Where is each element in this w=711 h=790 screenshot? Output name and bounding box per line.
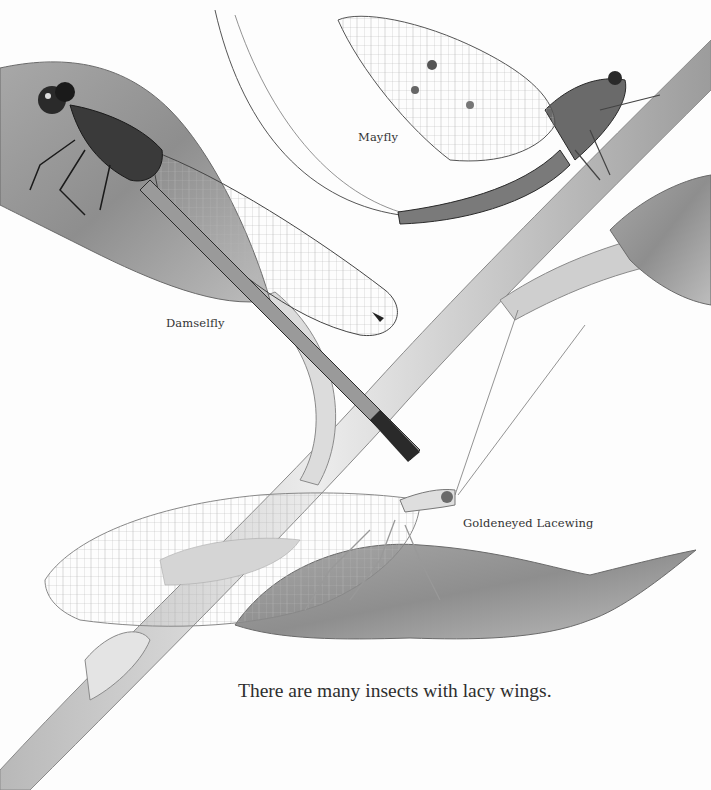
page-caption: There are many insects with lacy wings. xyxy=(238,680,552,702)
label-lacewing: Goldeneyed Lacewing xyxy=(463,516,593,530)
illustration-page: Mayfly Damselfly Goldeneyed Lacewing The… xyxy=(0,0,711,790)
label-mayfly: Mayfly xyxy=(358,130,398,144)
label-damselfly: Damselfly xyxy=(166,316,225,330)
insect-illustration xyxy=(0,0,711,790)
leaf-right xyxy=(610,175,711,305)
